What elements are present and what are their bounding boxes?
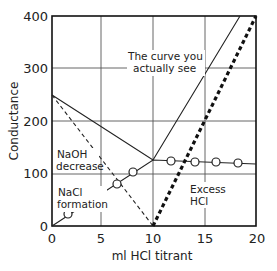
x-tick-20: 20	[249, 231, 266, 246]
annotation-curve-line1: The curve you	[127, 50, 203, 62]
x-tick-0: 0	[48, 231, 56, 246]
y-tick-300: 300	[23, 61, 48, 76]
x-axis-ticks: 0 5 10 15 20	[48, 231, 265, 246]
y-axis-label: Conductance	[7, 82, 21, 161]
y-tick-0: 0	[40, 219, 48, 234]
x-tick-15: 15	[197, 231, 214, 246]
x-tick-10: 10	[145, 231, 162, 246]
annotation-hcl: HCl	[190, 195, 208, 207]
annotation-curve-line2: actually see	[133, 62, 196, 74]
y-tick-100: 100	[23, 166, 48, 181]
conductometric-titration-chart: The curve you actually see NaOH decrease…	[0, 0, 277, 271]
x-axis-label: ml HCl titrant	[112, 249, 193, 263]
y-axis-ticks: 0 100 200 300 400	[23, 9, 48, 234]
x-tick-5: 5	[97, 231, 105, 246]
observed-curve-line	[52, 16, 240, 160]
y-tick-200: 200	[23, 114, 48, 129]
annotation-decrease: decrease	[56, 160, 104, 172]
annotation-excess: Excess	[190, 183, 226, 195]
y-tick-400: 400	[23, 9, 48, 24]
annotation-formation: formation	[57, 198, 108, 210]
annotation-naoh: NaOH	[57, 148, 87, 160]
annotation-nacl: NaCl	[58, 186, 83, 198]
